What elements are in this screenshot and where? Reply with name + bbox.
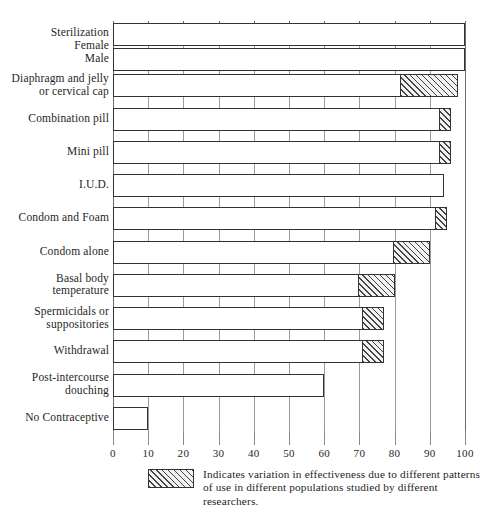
x-tick-mark-30 bbox=[219, 431, 220, 445]
category-label-line: Male bbox=[0, 52, 109, 65]
category-label: Combination pill bbox=[0, 112, 109, 125]
category-label-line: or cervical cap bbox=[0, 85, 109, 98]
bar-solid bbox=[113, 23, 465, 46]
bar-row bbox=[113, 274, 465, 297]
x-tick-mark-40 bbox=[254, 431, 255, 445]
top-tick-100 bbox=[465, 21, 466, 32]
bar-solid bbox=[113, 307, 363, 330]
bar-row bbox=[113, 23, 465, 46]
category-label-line: I.U.D. bbox=[0, 178, 109, 191]
category-label-line: douching bbox=[0, 384, 109, 397]
x-tick-label-80: 80 bbox=[389, 447, 401, 459]
category-label: Basal bodytemperature bbox=[0, 272, 109, 298]
bar-hatch-variation bbox=[358, 274, 395, 297]
bar-solid bbox=[113, 340, 363, 363]
bar-solid bbox=[113, 374, 324, 397]
bar-hatch-variation bbox=[439, 108, 451, 131]
x-tick-mark-20 bbox=[183, 431, 184, 445]
bar-solid bbox=[113, 207, 437, 230]
bar-row bbox=[113, 207, 465, 230]
x-tick-label-10: 10 bbox=[142, 447, 154, 459]
bar-row bbox=[113, 48, 465, 71]
category-label: Spermicidals orsuppositories bbox=[0, 305, 109, 331]
bar-hatch-variation bbox=[362, 340, 385, 363]
category-label-line: Sterilization bbox=[0, 26, 109, 39]
category-label-line: Mini pill bbox=[0, 145, 109, 158]
bar-row bbox=[113, 108, 465, 131]
category-label-line: Condom alone bbox=[0, 245, 109, 258]
x-tick-label-50: 50 bbox=[283, 447, 295, 459]
category-label: Mini pill bbox=[0, 145, 109, 158]
x-tick-label-30: 30 bbox=[213, 447, 225, 459]
x-tick-label-0: 0 bbox=[110, 447, 116, 459]
category-label-line: temperature bbox=[0, 284, 109, 297]
gridline-100 bbox=[465, 32, 466, 431]
x-tick-label-90: 90 bbox=[424, 447, 436, 459]
bar-row bbox=[113, 374, 465, 397]
category-label-line: Condom and Foam bbox=[0, 211, 109, 224]
bar-row bbox=[113, 74, 465, 97]
bar-hatch-variation bbox=[362, 307, 385, 330]
bar-row bbox=[113, 340, 465, 363]
bar-solid bbox=[113, 241, 395, 264]
x-tick-mark-70 bbox=[359, 431, 360, 445]
plot-area bbox=[113, 32, 465, 431]
x-tick-label-20: 20 bbox=[178, 447, 190, 459]
x-tick-mark-50 bbox=[289, 431, 290, 445]
bar-solid bbox=[113, 74, 402, 97]
bar-row bbox=[113, 241, 465, 264]
x-tick-label-100: 100 bbox=[456, 447, 473, 459]
bar-row bbox=[113, 407, 465, 430]
x-tick-mark-80 bbox=[395, 431, 396, 445]
category-label-line: Spermicidals or bbox=[0, 305, 109, 318]
category-label-line: Post-intercourse bbox=[0, 371, 109, 384]
category-label-line: Diaphragm and jelly bbox=[0, 72, 109, 85]
chart-root: SterilizationFemaleMaleDiaphragm and jel… bbox=[0, 0, 494, 514]
category-label-line: Withdrawal bbox=[0, 344, 109, 357]
bar-hatch-variation bbox=[400, 74, 458, 97]
legend-label: Indicates variation in effectiveness due… bbox=[203, 468, 494, 508]
bar-solid bbox=[113, 141, 440, 164]
x-tick-mark-10 bbox=[148, 431, 149, 445]
category-label-line: Basal body bbox=[0, 272, 109, 285]
category-label: I.U.D. bbox=[0, 178, 109, 191]
category-label: Condom and Foam bbox=[0, 211, 109, 224]
bar-solid bbox=[113, 108, 440, 131]
x-tick-label-40: 40 bbox=[248, 447, 260, 459]
bar-solid bbox=[113, 48, 465, 71]
chart-legend: Indicates variation in effectiveness due… bbox=[148, 468, 494, 508]
category-label: Post-intercoursedouching bbox=[0, 371, 109, 397]
category-label-line: suppositories bbox=[0, 318, 109, 331]
category-label-line: Combination pill bbox=[0, 112, 109, 125]
category-label-line: Female bbox=[0, 39, 109, 52]
x-tick-mark-0 bbox=[113, 431, 114, 445]
category-label: SterilizationFemaleMale bbox=[0, 26, 109, 64]
bar-row bbox=[113, 141, 465, 164]
category-label: No Contraceptive bbox=[0, 411, 109, 424]
category-label: Diaphragm and jellyor cervical cap bbox=[0, 72, 109, 98]
bar-solid bbox=[113, 407, 148, 430]
bar-row bbox=[113, 174, 465, 197]
x-tick-mark-60 bbox=[324, 431, 325, 445]
category-label: Withdrawal bbox=[0, 344, 109, 357]
x-tick-mark-90 bbox=[430, 431, 431, 445]
x-tick-label-70: 70 bbox=[354, 447, 366, 459]
x-tick-label-60: 60 bbox=[318, 447, 330, 459]
bar-hatch-variation bbox=[393, 241, 430, 264]
category-label-line: No Contraceptive bbox=[0, 411, 109, 424]
bar-solid bbox=[113, 274, 359, 297]
bar-row bbox=[113, 307, 465, 330]
bar-solid bbox=[113, 174, 444, 197]
legend-hatch-swatch bbox=[148, 469, 194, 488]
bar-hatch-variation bbox=[439, 141, 451, 164]
category-label: Condom alone bbox=[0, 245, 109, 258]
bar-hatch-variation bbox=[435, 207, 447, 230]
x-tick-mark-100 bbox=[465, 431, 466, 445]
